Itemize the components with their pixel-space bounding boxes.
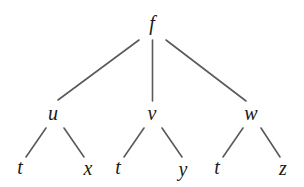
node-v-y: y bbox=[179, 159, 188, 179]
edge-w-w_z bbox=[261, 128, 280, 157]
node-u-x: x bbox=[84, 158, 93, 178]
node-w-z: z bbox=[279, 158, 287, 178]
edge-w-w_t bbox=[223, 128, 243, 157]
node-v-t: t bbox=[115, 157, 121, 177]
node-u-t: t bbox=[17, 157, 23, 177]
edge-u-u_t bbox=[26, 128, 46, 157]
node-f: f bbox=[149, 13, 155, 33]
node-w: w bbox=[244, 103, 257, 123]
edge-f-w bbox=[166, 40, 246, 101]
edge-v-v_t bbox=[124, 128, 144, 157]
edge-u-u_x bbox=[64, 128, 84, 157]
node-w-t: t bbox=[214, 157, 220, 177]
edge-v-v_y bbox=[162, 128, 182, 157]
tree-edges bbox=[26, 40, 280, 157]
edge-f-u bbox=[58, 40, 139, 100]
node-v: v bbox=[148, 103, 157, 123]
node-u: u bbox=[48, 103, 58, 123]
